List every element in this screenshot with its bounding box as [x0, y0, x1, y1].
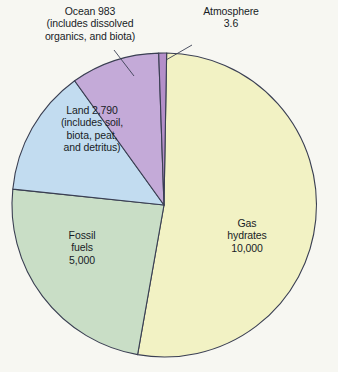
- pie-chart-figure: Ocean 983 (includes dissolved organics, …: [0, 0, 338, 372]
- label-land: Land 2,790 (includes soil, biota, peat, …: [36, 104, 148, 154]
- pie-chart-svg: [0, 0, 338, 372]
- label-atmosphere: Atmosphere 3.6: [176, 5, 286, 30]
- label-fossil-fuels: Fossil fuels 5,000: [42, 229, 122, 266]
- label-gas-hydrates: Gas hydrates 10,000: [205, 217, 289, 254]
- label-ocean: Ocean 983 (includes dissolved organics, …: [12, 5, 168, 42]
